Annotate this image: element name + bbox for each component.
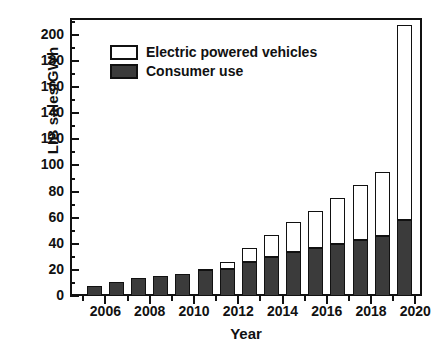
segment-consumer-use-2009 [175, 274, 190, 296]
segment-electric-powered-vehicles-2018 [375, 172, 390, 236]
y-tick-minor [70, 204, 75, 206]
y-tick-major [70, 138, 79, 140]
legend-label: Electric powered vehicles [146, 44, 317, 60]
x-tick-minor [171, 296, 173, 301]
x-tick-minor [82, 296, 84, 301]
legend-item: Electric powered vehicles [110, 44, 317, 60]
segment-consumer-use-2012 [242, 262, 257, 296]
y-tick-label: 200 [4, 26, 64, 42]
bar-2015 [308, 211, 323, 296]
y-tick-label: 100 [4, 156, 64, 172]
y-tick-major [70, 34, 79, 36]
y-tick-minor [70, 73, 75, 75]
x-axis-title: Year [70, 325, 422, 342]
y-tick-label: 160 [4, 78, 64, 94]
x-tick-minor [215, 296, 217, 301]
bar-2010 [198, 269, 213, 296]
legend-swatch-filled-icon [110, 64, 138, 79]
y-tick-major [70, 164, 79, 166]
segment-electric-powered-vehicles-2014 [286, 222, 301, 252]
segment-consumer-use-2011 [220, 269, 235, 296]
y-tick-major [70, 217, 79, 219]
bar-2011 [220, 262, 235, 296]
segment-electric-powered-vehicles-2012 [242, 248, 257, 262]
x-tick-minor [348, 296, 350, 301]
segment-consumer-use-2015 [308, 248, 323, 296]
y-tick-label: 40 [4, 235, 64, 251]
bar-2013 [264, 235, 279, 296]
y-tick-minor [70, 21, 75, 23]
segment-consumer-use-2005 [87, 286, 102, 296]
bar-2007 [131, 278, 146, 296]
x-tick-minor [392, 296, 394, 301]
bar-2008 [153, 276, 168, 296]
y-tick-label: 60 [4, 209, 64, 225]
segment-consumer-use-2006 [109, 282, 124, 296]
legend-label: Consumer use [146, 63, 243, 79]
x-tick-minor [304, 296, 306, 301]
x-tick-label: 2020 [387, 303, 441, 319]
bar-2009 [175, 274, 190, 296]
y-tick-major [70, 243, 79, 245]
y-tick-minor [70, 256, 75, 258]
segment-electric-powered-vehicles-2016 [330, 198, 345, 244]
y-tick-label: 20 [4, 261, 64, 277]
y-tick-minor [70, 99, 75, 101]
segment-electric-powered-vehicles-2019 [397, 25, 412, 221]
y-tick-label: 120 [4, 130, 64, 146]
y-tick-minor [70, 125, 75, 127]
segment-consumer-use-2010 [198, 270, 213, 296]
bar-2005 [87, 286, 102, 296]
bar-2006 [109, 282, 124, 296]
x-tick-minor [127, 296, 129, 301]
segment-consumer-use-2016 [330, 244, 345, 296]
bar-2019 [397, 25, 412, 296]
segment-consumer-use-2008 [153, 276, 168, 296]
y-tick-major [70, 86, 79, 88]
y-tick-label: 180 [4, 52, 64, 68]
bar-2016 [330, 198, 345, 296]
segment-consumer-use-2018 [375, 236, 390, 296]
y-tick-minor [70, 282, 75, 284]
segment-electric-powered-vehicles-2013 [264, 235, 279, 257]
segment-electric-powered-vehicles-2017 [353, 185, 368, 240]
x-tick-minor [259, 296, 261, 301]
y-tick-major [70, 60, 79, 62]
bar-2017 [353, 185, 368, 296]
y-tick-major [70, 269, 79, 271]
segment-consumer-use-2014 [286, 252, 301, 296]
y-tick-minor [70, 178, 75, 180]
segment-electric-powered-vehicles-2015 [308, 211, 323, 248]
segment-consumer-use-2019 [397, 220, 412, 296]
y-tick-major [70, 112, 79, 114]
bar-2012 [242, 248, 257, 296]
legend-swatch-open-icon [110, 45, 138, 60]
y-tick-label: 140 [4, 104, 64, 120]
y-tick-label: 80 [4, 183, 64, 199]
segment-consumer-use-2013 [264, 257, 279, 296]
y-tick-major [70, 295, 79, 297]
y-tick-minor [70, 47, 75, 49]
chart-legend: Electric powered vehiclesConsumer use [110, 44, 317, 79]
y-tick-label: 0 [4, 287, 64, 303]
bar-2018 [375, 172, 390, 296]
legend-item: Consumer use [110, 63, 317, 79]
segment-consumer-use-2017 [353, 240, 368, 296]
bar-2014 [286, 222, 301, 296]
y-tick-minor [70, 230, 75, 232]
y-tick-major [70, 191, 79, 193]
segment-consumer-use-2007 [131, 278, 146, 296]
y-tick-minor [70, 151, 75, 153]
lib-sales-bar-chart: LIB sales/GWh 02040608010012014016018020… [0, 0, 441, 352]
